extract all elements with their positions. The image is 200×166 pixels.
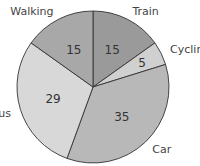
slice-value-walking: 15	[66, 43, 81, 57]
slice-label-cycling: Cycling	[170, 43, 200, 56]
slice-label-train: Train	[131, 5, 158, 18]
pie-chart: 15Train5Cycling35Car29Bus15Walking	[0, 0, 200, 166]
slice-label-bus: Bus	[0, 107, 11, 120]
pie-slices	[17, 11, 169, 163]
slice-label-car: Car	[152, 143, 171, 156]
slice-value-car: 35	[114, 110, 129, 124]
slice-value-bus: 29	[45, 92, 60, 106]
slice-value-cycling: 5	[138, 56, 146, 70]
slice-label-walking: Walking	[10, 5, 53, 18]
slice-value-train: 15	[105, 43, 120, 57]
